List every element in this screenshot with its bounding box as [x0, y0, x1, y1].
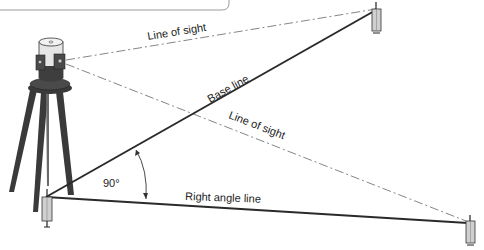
label-base-line: Base line	[205, 72, 250, 104]
label-line-of-sight-upper: Line of sight	[146, 21, 206, 42]
label-right-angle-line: Right angle line	[185, 190, 261, 205]
line-of-sight-lower	[66, 64, 466, 221]
far-stake-right-angle-line	[466, 215, 475, 245]
builders-level-instrument	[36, 38, 65, 82]
label-angle-90: 90°	[103, 177, 120, 189]
tripod	[9, 78, 74, 212]
angle-arc	[135, 150, 148, 199]
line-of-sight-upper	[66, 9, 376, 60]
surveying-diagram: Line of sight Base line Line of sight 90…	[0, 0, 484, 250]
far-stake-base-line	[372, 2, 381, 33]
label-line-of-sight-lower: Line of sight	[227, 109, 287, 141]
caption-frame	[0, 0, 229, 10]
